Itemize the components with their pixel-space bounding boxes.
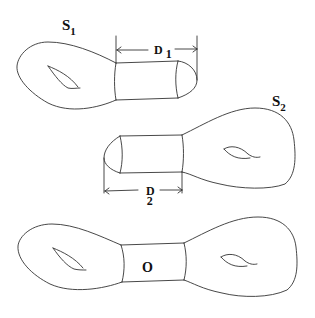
sum-neck-left-seam <box>121 245 124 282</box>
connected-sum-diagram: D1 S1 D2 S2 O <box>0 0 315 318</box>
sum-neck-label: O <box>142 260 153 275</box>
sum-neck-bottom <box>122 280 184 282</box>
sum-neck-right-seam <box>184 243 186 280</box>
sum-right-bulb-outline <box>184 217 297 296</box>
s2-handle-hole <box>224 147 260 159</box>
s2-neck-bottom <box>120 172 182 173</box>
s2-neck-right-seam <box>182 135 184 172</box>
s2-dimension-label: D2 <box>146 184 155 208</box>
s1-handle-hole <box>48 66 80 88</box>
s1-neck-left-seam <box>115 63 117 100</box>
sum-left-handle-hole <box>53 248 86 270</box>
s1-neck-right-seam <box>176 61 178 98</box>
surface-s1: D1 S1 <box>17 17 197 109</box>
s1-label: S1 <box>62 17 76 37</box>
surface-s2: D2 S2 <box>104 93 295 208</box>
sum-right-handle-hole <box>221 254 257 266</box>
sum-neck-top <box>121 243 184 245</box>
s2-neck-left-seam <box>120 136 122 173</box>
connected-sum: O <box>18 217 297 296</box>
s1-cap <box>178 61 197 98</box>
s1-neck-bottom <box>116 98 178 100</box>
s2-dimension-line-left <box>105 190 138 191</box>
s1-dimension-label: D1 <box>154 43 172 61</box>
s2-neck-top <box>120 135 182 136</box>
s1-neck-top <box>116 61 178 63</box>
s2-cap <box>104 136 120 173</box>
s2-label: S2 <box>272 93 286 113</box>
